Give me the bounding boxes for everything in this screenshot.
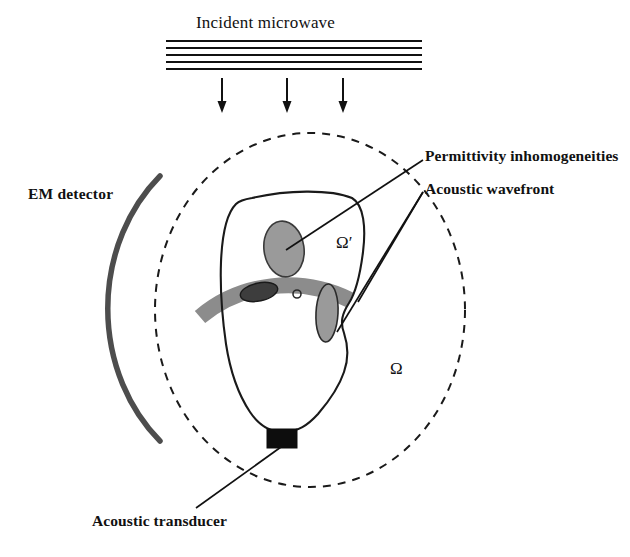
inner-domain-symbol: Ω′	[336, 234, 352, 251]
acoustic-transducer-leader-line	[196, 447, 281, 508]
inhomogeneity-upper	[260, 218, 307, 279]
thermoacoustic-figure: Incident microwave EM detector Permittiv…	[0, 0, 630, 557]
acoustic-transducer-label: Acoustic transducer	[92, 513, 227, 529]
em-detector-arc	[108, 176, 160, 441]
figure-canvas	[0, 0, 630, 557]
inhomogeneity-band-left	[239, 279, 280, 305]
microwave-arrow-3	[339, 78, 348, 113]
microwave-direction-arrows	[218, 78, 348, 113]
microwave-source-lines	[166, 41, 422, 69]
outer-domain-symbol: Ω	[390, 360, 403, 377]
em-detector-label: EM detector	[28, 186, 113, 202]
acoustic-wavefront-leader-line-b	[358, 192, 423, 302]
permittivity-leader-line	[286, 160, 423, 250]
microwave-arrow-1	[218, 78, 227, 113]
microwave-arrow-2	[283, 78, 292, 113]
acoustic-wavefront-label: Acoustic wavefront	[425, 181, 554, 197]
permittivity-inhomogeneities-label: Permittivity inhomogeneities	[425, 148, 619, 164]
incident-microwave-label: Incident microwave	[196, 14, 335, 31]
acoustic-transducer	[267, 429, 297, 448]
